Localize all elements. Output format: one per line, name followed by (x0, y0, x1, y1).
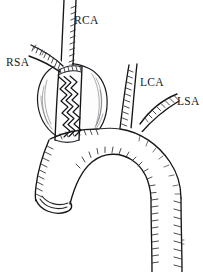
rsa-vessel (29, 42, 64, 72)
aortic-arch-illustration: RCA RSA LCA LSA (0, 0, 203, 272)
label-rsa: RSA (6, 56, 30, 68)
label-lsa: LSA (177, 95, 200, 107)
lca-vessel (119, 64, 137, 129)
lsa-vessel (140, 94, 179, 133)
aortic-arch (35, 128, 184, 272)
label-rca: RCA (74, 14, 99, 26)
label-lca: LCA (140, 76, 164, 88)
figure-root: RCA RSA LCA LSA (0, 0, 203, 272)
rca-vessel (61, 0, 76, 66)
